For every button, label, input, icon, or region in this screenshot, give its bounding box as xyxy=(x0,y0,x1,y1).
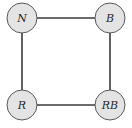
graph-diagram: N B R RB xyxy=(0,0,132,128)
node-r: R xyxy=(7,90,37,120)
node-b: B xyxy=(95,3,125,33)
node-n-label: N xyxy=(16,12,27,25)
nodes: N B R RB xyxy=(7,3,125,120)
edges xyxy=(22,18,110,105)
node-rb-label: RB xyxy=(101,99,118,112)
node-b-label: B xyxy=(105,12,114,25)
node-rb: RB xyxy=(95,90,125,120)
node-r-label: R xyxy=(17,99,26,112)
node-n: N xyxy=(7,3,37,33)
